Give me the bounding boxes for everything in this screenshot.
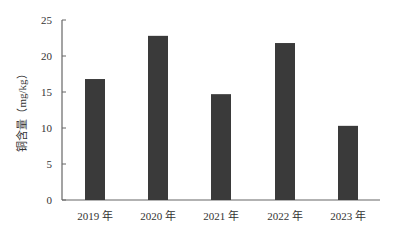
y-tick-label: 10 <box>41 122 53 134</box>
y-tick-label: 5 <box>47 158 53 170</box>
x-tick-labels: 2019 年2020 年2021 年2022 年2023 年 <box>77 209 366 222</box>
y-axis <box>62 20 66 200</box>
x-tick-label: 2019 年 <box>77 209 113 222</box>
bar-2022 <box>275 43 295 200</box>
bar-2020 <box>148 36 168 200</box>
y-axis-title: 铜含量（mg/kg） <box>15 68 28 151</box>
y-tick-labels: 0510152025 <box>41 14 53 206</box>
bar-2023 <box>338 126 358 200</box>
x-tick-label: 2022 年 <box>267 209 303 222</box>
y-tick-label: 20 <box>41 50 53 62</box>
x-tick-label: 2023 年 <box>330 209 366 222</box>
bars <box>85 36 358 200</box>
bar-2021 <box>211 94 231 200</box>
y-tick-label: 15 <box>41 86 53 98</box>
y-tick-label: 25 <box>41 14 53 26</box>
bar-2019 <box>85 79 105 200</box>
bar-chart: 2019 年2020 年2021 年2022 年2023 年 051015202… <box>0 0 397 242</box>
x-tick-label: 2021 年 <box>203 209 239 222</box>
x-tick-label: 2020 年 <box>140 209 176 222</box>
y-tick-label: 0 <box>47 194 53 206</box>
